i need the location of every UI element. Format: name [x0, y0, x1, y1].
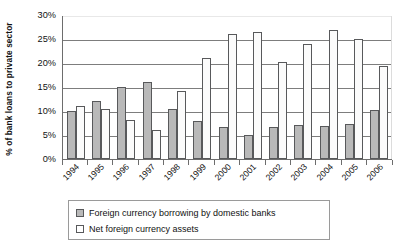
bar-1995-series2	[101, 109, 110, 159]
bar-group	[139, 16, 164, 159]
y-axis-tick-labels: 30%25%20%15%10%5%0%	[20, 0, 60, 178]
chart-figure: % of bank loans to private sector 30%25%…	[0, 0, 398, 252]
bar-group	[341, 16, 366, 159]
bar-1996-series2	[126, 120, 135, 159]
bar-2005-series1	[345, 124, 354, 159]
bar-2005-series2	[354, 39, 363, 159]
x-axis-tick-label: 2003	[289, 162, 310, 183]
bar-group	[266, 16, 291, 159]
bar-1994-series2	[76, 106, 85, 159]
x-axis-label-cell: 2005	[341, 165, 366, 199]
y-axis-title-label: % of bank loans to private sector	[4, 22, 14, 155]
x-axis-label-cell: 1999	[189, 165, 214, 199]
y-axis-tick-label: 15%	[38, 83, 56, 92]
x-axis-label-cell: 1996	[113, 165, 138, 199]
bar-1998-series1	[168, 109, 177, 159]
bar-group	[367, 16, 392, 159]
bar-group	[240, 16, 265, 159]
bar-1998-series2	[177, 91, 186, 159]
y-axis-tick-label: 30%	[38, 11, 56, 20]
x-axis-tick-label: 2004	[314, 162, 335, 183]
bar-2000-series2	[228, 34, 237, 159]
x-axis-label-cell: 2002	[265, 165, 290, 199]
x-axis-tick-label: 2005	[339, 162, 360, 183]
x-axis-tick-label: 1997	[136, 162, 157, 183]
bar-2004-series1	[320, 126, 329, 159]
bar-1994-series1	[67, 111, 76, 159]
bar-2000-series1	[219, 127, 228, 159]
y-axis-tick-label: 20%	[38, 59, 56, 68]
x-axis-label-cell: 2000	[214, 165, 239, 199]
bar-2001-series1	[244, 135, 253, 159]
x-axis-tick-label: 1998	[162, 162, 183, 183]
bottom-artifact-strip	[0, 245, 90, 252]
y-axis-tick-label: 5%	[43, 131, 56, 140]
x-axis-tick-label: 2000	[213, 162, 234, 183]
x-axis-tick-labels: 1994199519961997199819992000200120022003…	[62, 165, 392, 199]
plot-area	[62, 16, 392, 160]
y-axis-title: % of bank loans to private sector	[0, 0, 18, 178]
x-axis-label-cell: 1997	[138, 165, 163, 199]
y-axis-tick-label: 10%	[38, 107, 56, 116]
y-axis-tick-label: 25%	[38, 35, 56, 44]
x-axis-tick-label: 2006	[365, 162, 386, 183]
x-axis-label-cell: 2006	[367, 165, 392, 199]
bar-2002-series1	[269, 127, 278, 159]
bar-2004-series2	[329, 30, 338, 159]
bar-2006-series2	[379, 66, 388, 159]
bar-2003-series2	[303, 44, 312, 159]
x-axis-tick-label: 2001	[238, 162, 259, 183]
legend-item-label: Net foreign currency assets	[89, 224, 199, 234]
hollow-white-swatch-icon	[76, 225, 84, 233]
bar-series-container	[63, 16, 392, 159]
x-axis-label-cell: 1994	[62, 165, 87, 199]
bar-group	[215, 16, 240, 159]
bar-2006-series1	[370, 110, 379, 159]
x-axis-label-cell: 2003	[291, 165, 316, 199]
x-axis-label-cell: 2004	[316, 165, 341, 199]
bar-2003-series1	[294, 125, 303, 159]
bar-1997-series2	[152, 130, 161, 159]
bar-group	[88, 16, 113, 159]
y-axis-tick-label: 0%	[43, 155, 56, 164]
legend-item[interactable]: Net foreign currency assets	[76, 221, 322, 237]
bar-1999-series1	[193, 121, 202, 159]
bar-group	[190, 16, 215, 159]
x-axis-label-cell: 1995	[87, 165, 112, 199]
bar-1997-series1	[143, 82, 152, 159]
legend-item[interactable]: Foreign currency borrowing by domestic b…	[76, 205, 322, 221]
x-axis-tick-label: 1994	[60, 162, 81, 183]
x-axis-label-cell: 1998	[164, 165, 189, 199]
x-axis-tick-label: 1996	[111, 162, 132, 183]
bar-group	[164, 16, 189, 159]
bar-2002-series2	[278, 62, 287, 159]
bar-1996-series1	[117, 87, 126, 159]
bar-2001-series2	[253, 32, 262, 159]
x-axis-tick-label: 1999	[187, 162, 208, 183]
filled-gray-swatch-icon	[76, 209, 84, 217]
x-axis-label-cell: 2001	[240, 165, 265, 199]
chart-legend: Foreign currency borrowing by domestic b…	[68, 200, 330, 240]
bar-group	[114, 16, 139, 159]
x-axis-tick-label: 1995	[86, 162, 107, 183]
bar-group	[316, 16, 341, 159]
bar-group	[291, 16, 316, 159]
bar-1995-series1	[92, 101, 101, 159]
legend-item-label: Foreign currency borrowing by domestic b…	[89, 208, 276, 218]
bar-group	[63, 16, 88, 159]
bar-1999-series2	[202, 58, 211, 159]
x-axis-tick-label: 2002	[263, 162, 284, 183]
